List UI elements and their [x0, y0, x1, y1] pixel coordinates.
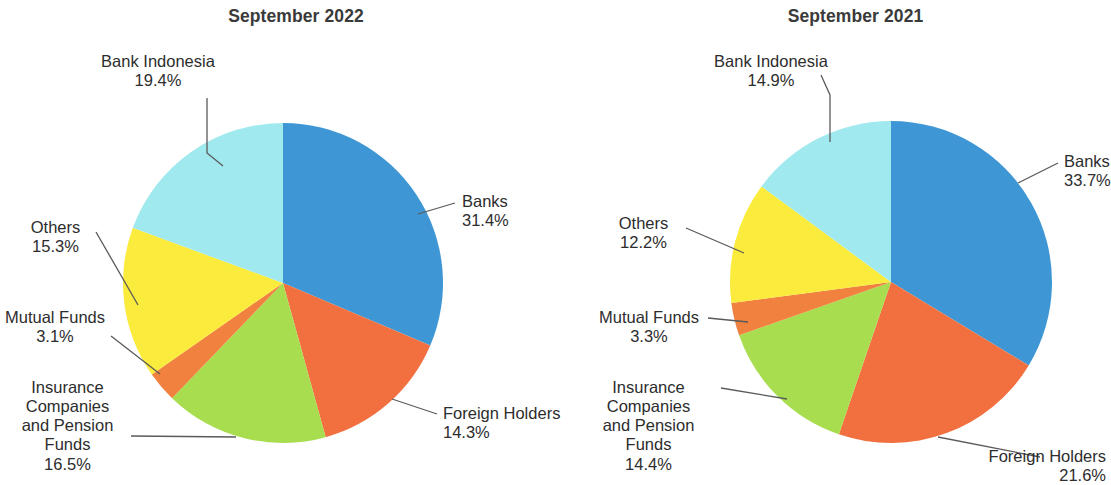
label-banks-right-pct: 33.7% [1064, 171, 1111, 190]
label-mutual-funds-right-pct: 3.3% [594, 327, 704, 346]
label-bank-indonesia-right-name: Bank Indonesia [671, 52, 871, 71]
label-insurance-right-pct: 14.4% [586, 455, 711, 474]
label-foreign-holders-right-name: Foreign Holders [931, 447, 1106, 466]
label-insurance-left-line2: Companies [5, 397, 130, 416]
label-mutual-funds-left-pct: 3.1% [0, 327, 110, 346]
chart-panel-september-2022: September 2022 Bank I [0, 0, 556, 485]
label-insurance-right-line3: and Pension [586, 416, 711, 435]
label-others-right: Others 12.2% [606, 214, 681, 252]
label-foreign-holders-right-pct: 21.6% [931, 466, 1106, 485]
label-banks-right: Banks 33.7% [1064, 152, 1111, 190]
label-insurance-left-pct: 16.5% [5, 455, 130, 474]
label-others-left-name: Others [18, 218, 93, 237]
label-banks-left-name: Banks [462, 192, 509, 211]
pie-slices-right [730, 121, 1052, 443]
label-insurance-right-line4: Funds [586, 435, 711, 454]
chart-panel-september-2021: September 2021 Bank I [556, 0, 1111, 485]
label-others-left-pct: 15.3% [18, 237, 93, 256]
leader-line-insurance [131, 436, 236, 437]
label-insurance-right-line1: Insurance [586, 378, 711, 397]
label-insurance-right: Insurance Companies and Pension Funds 14… [586, 378, 711, 474]
label-foreign-holders-left-name: Foreign Holders [443, 404, 560, 423]
pie-slices-left [123, 123, 443, 443]
leader-line-others [686, 228, 744, 253]
label-foreign-holders-left-pct: 14.3% [443, 423, 560, 442]
label-banks-left: Banks 31.4% [462, 192, 509, 230]
label-mutual-funds-right-name: Mutual Funds [594, 308, 704, 327]
leader-line-banks [1018, 163, 1058, 183]
label-bank-indonesia-left: Bank Indonesia 19.4% [58, 52, 258, 90]
label-bank-indonesia-left-name: Bank Indonesia [58, 52, 258, 71]
label-banks-left-pct: 31.4% [462, 211, 509, 230]
label-bank-indonesia-right: Bank Indonesia 14.9% [671, 52, 871, 90]
label-insurance-left-line4: Funds [5, 435, 130, 454]
label-insurance-left-line3: and Pension [5, 416, 130, 435]
label-foreign-holders-right: Foreign Holders 21.6% [931, 447, 1106, 485]
label-mutual-funds-left: Mutual Funds 3.1% [0, 308, 110, 346]
label-others-left: Others 15.3% [18, 218, 93, 256]
label-others-right-name: Others [606, 214, 681, 233]
pie-chart-figure: September 2022 Bank I [0, 0, 1111, 485]
label-insurance-left: Insurance Companies and Pension Funds 16… [5, 378, 130, 474]
label-banks-right-name: Banks [1064, 152, 1111, 171]
label-insurance-left-line1: Insurance [5, 378, 130, 397]
label-insurance-right-line2: Companies [586, 397, 711, 416]
label-bank-indonesia-right-pct: 14.9% [671, 71, 871, 90]
label-mutual-funds-left-name: Mutual Funds [0, 308, 110, 327]
leader-line-foreign-holders [392, 399, 437, 414]
label-mutual-funds-right: Mutual Funds 3.3% [594, 308, 704, 346]
label-bank-indonesia-left-pct: 19.4% [58, 71, 258, 90]
label-foreign-holders-left: Foreign Holders 14.3% [443, 404, 560, 442]
label-others-right-pct: 12.2% [606, 233, 681, 252]
